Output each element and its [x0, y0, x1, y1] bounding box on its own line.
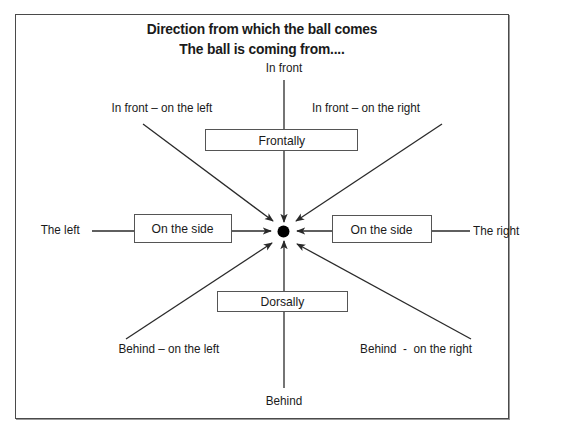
frontally-box: Frontally [205, 129, 358, 151]
frontally-label: Frontally [258, 133, 305, 148]
label-the-right: The right [473, 223, 527, 239]
label-behind-right: Behind - on the right [360, 341, 488, 357]
dorsally-label: Dorsally [261, 294, 305, 309]
label-in-front-left: In front – on the left [112, 100, 247, 116]
side-right-box: On the side [332, 215, 432, 243]
label-behind-left: Behind – on the left [119, 341, 236, 357]
label-behind: Behind [256, 393, 312, 409]
label-in-front-right: In front – on the right [312, 100, 458, 116]
dorsally-box: Dorsally [217, 291, 348, 312]
ball-icon [278, 226, 290, 238]
side-left-label: On the side [152, 221, 214, 236]
side-right-label: On the side [351, 222, 413, 237]
label-in-front: In front [257, 60, 311, 76]
label-the-left: The left [41, 222, 90, 238]
side-left-box: On the side [134, 214, 232, 243]
